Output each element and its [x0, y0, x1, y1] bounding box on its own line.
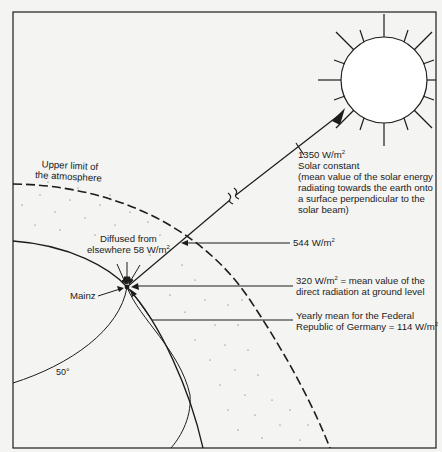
earth-surface-curve [13, 241, 203, 448]
yearly-mean-line2: Republic of Germany = 114 W/m2 [296, 321, 438, 332]
ground-320-line2: direct radiation at ground level [296, 286, 425, 297]
solar-value: 1350 W/m2 [298, 149, 438, 160]
atm-544-label: 544 W/m2 [293, 237, 335, 248]
yearly-mean-leader [132, 292, 293, 320]
atmosphere-label: Upper limit of the atmosphere [35, 158, 103, 183]
diffused-label: Diffused from elsewhere 58 W/m2 [87, 233, 170, 255]
ground-320-line1: 320 W/m2 = mean value of the [296, 275, 425, 286]
latitude-50-curve [13, 287, 127, 383]
sun-icon [318, 14, 436, 146]
beam-arrowhead-icon [332, 108, 345, 125]
latitude-50-lower-curve [127, 287, 190, 448]
diffused-line2: elsewhere 58 W/m2 [87, 244, 170, 255]
mainz-point [125, 285, 130, 290]
solar-description: (mean value of the solar energy radiatin… [298, 171, 438, 215]
yearly-mean-label: Yearly mean for the Federal Republic of … [296, 310, 438, 332]
mainz-leader [98, 289, 120, 296]
mainz-arrow-icon [117, 286, 124, 292]
radiation-diagram [0, 0, 442, 452]
solar-title: Solar constant [298, 160, 438, 171]
yearly-mean-line1: Yearly mean for the Federal [296, 310, 438, 321]
mainz-label: Mainz [70, 290, 96, 301]
atmosphere-stipple [21, 181, 308, 440]
atmosphere-limit-curve [13, 184, 330, 448]
ground-320-label: 320 W/m2 = mean value of the direct radi… [296, 275, 425, 297]
solar-constant-label: 1350 W/m2 Solar constant (mean value of … [298, 149, 438, 215]
diffused-line1: Diffused from [87, 233, 170, 244]
latitude-50-label: 50° [56, 367, 70, 378]
ground-320-arrow-icon [131, 283, 139, 290]
